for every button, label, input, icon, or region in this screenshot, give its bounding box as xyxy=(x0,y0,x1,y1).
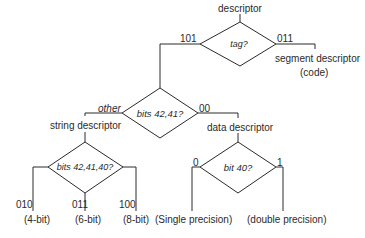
bits-42-41-question: bits 42,41? xyxy=(137,108,183,119)
branch-0-line xyxy=(192,167,200,211)
branch-1-line xyxy=(276,167,283,211)
branch-010-line xyxy=(33,167,48,211)
data-descriptor-label: data descriptor xyxy=(207,122,273,133)
tag-question: tag? xyxy=(230,39,248,50)
branch-other-label: other xyxy=(98,103,121,114)
branch-00-label: 00 xyxy=(199,103,210,114)
segment-descriptor-label: segment descriptor xyxy=(275,53,360,64)
branch-100-label: 100 xyxy=(119,199,136,210)
leaf-single-precision: (Single precision) xyxy=(155,214,232,225)
branch-1-label: 1 xyxy=(277,157,283,168)
branch-101-line xyxy=(160,44,200,88)
leaf-4-bit: (4-bit) xyxy=(24,214,50,225)
segment-code-label: (code) xyxy=(300,67,328,78)
string-descriptor-label: string descriptor xyxy=(50,120,121,131)
branch-101-label: 101 xyxy=(180,33,197,44)
leaf-double-precision: (double precision) xyxy=(247,214,327,225)
branch-011-label: 011 xyxy=(277,33,293,44)
bits-42-41-40-question: bits 42,41,40? xyxy=(57,162,114,173)
bit-40-question: bit 40? xyxy=(224,162,253,173)
root-label: descriptor xyxy=(218,3,262,14)
branch-011-line xyxy=(276,44,315,49)
descriptor-decision-tree: descriptor tag? 101 011 segment descript… xyxy=(0,0,365,238)
branch-0-label: 0 xyxy=(193,157,199,168)
leaf-8-bit: (8-bit) xyxy=(123,214,149,225)
branch-010-label: 010 xyxy=(16,199,33,210)
leaf-6-bit: (6-bit) xyxy=(75,214,101,225)
branch-011b-label: 011 xyxy=(72,199,88,210)
